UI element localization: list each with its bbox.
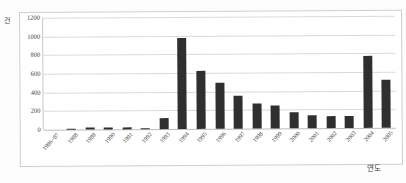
y-axis-tick-label: 400	[31, 89, 41, 96]
bar	[308, 115, 317, 128]
bar	[234, 96, 243, 129]
x-axis-tick-text: 2000	[289, 130, 302, 143]
bar	[141, 128, 150, 129]
x-axis-tick-text: 1998	[252, 131, 265, 144]
y-axis-tick-label: 200	[31, 108, 41, 115]
x-axis-title: 연도	[367, 162, 381, 173]
x-axis-tick-text: 2001	[307, 130, 320, 143]
bar	[326, 116, 335, 128]
y-axis-tick-label: 0	[37, 127, 40, 134]
gridline	[43, 72, 395, 75]
bar	[382, 80, 391, 128]
plot-wrapper: 1200100080060040020001986~87198819891990…	[21, 11, 399, 163]
x-axis-tick-text: 2003	[344, 130, 357, 143]
y-axis-tick-label: 600	[31, 71, 41, 78]
bar	[289, 112, 298, 128]
plot-area: 1200100080060040020001986~87198819891990…	[42, 16, 396, 130]
x-axis-tick-text: 1994	[178, 131, 191, 144]
bar	[196, 71, 205, 129]
x-axis-tick-text: 1993	[159, 131, 172, 144]
bar	[252, 104, 261, 129]
bar	[178, 38, 188, 129]
bar	[345, 116, 354, 128]
x-axis-tick-text: 2004	[363, 130, 376, 143]
x-axis-tick-text: 1997	[233, 131, 246, 144]
x-axis-tick-text: 1999	[270, 130, 283, 143]
x-axis-tick-text: 2002	[326, 130, 339, 143]
bar	[160, 118, 169, 129]
bar	[215, 83, 224, 129]
y-axis-title: 건	[4, 15, 10, 25]
bar	[104, 128, 113, 130]
x-axis-tick-text: 1986~87	[42, 132, 61, 152]
scanned-chart-page: 건 1200100080060040020001986~871988198919…	[0, 0, 406, 183]
gridline	[43, 34, 395, 37]
x-axis-tick-text: 1988	[66, 132, 79, 145]
x-axis-tick-text: 1990	[103, 131, 116, 144]
x-axis-tick-text: 2005	[381, 130, 394, 143]
bar	[363, 56, 372, 128]
gridline	[43, 16, 395, 19]
bar	[271, 105, 280, 128]
y-axis-tick-label: 800	[30, 52, 40, 59]
gridline	[43, 53, 395, 56]
bar	[67, 128, 76, 129]
x-axis-tick-text: 1995	[196, 131, 209, 144]
x-axis-tick-text: 1992	[140, 131, 153, 144]
x-axis-tick-text: 1991	[122, 131, 135, 144]
x-axis-tick-text: 1989	[85, 132, 98, 145]
y-axis-tick-label: 1000	[27, 33, 40, 40]
y-axis-tick-label: 1200	[27, 15, 40, 22]
x-axis-tick-text: 1996	[215, 131, 228, 144]
